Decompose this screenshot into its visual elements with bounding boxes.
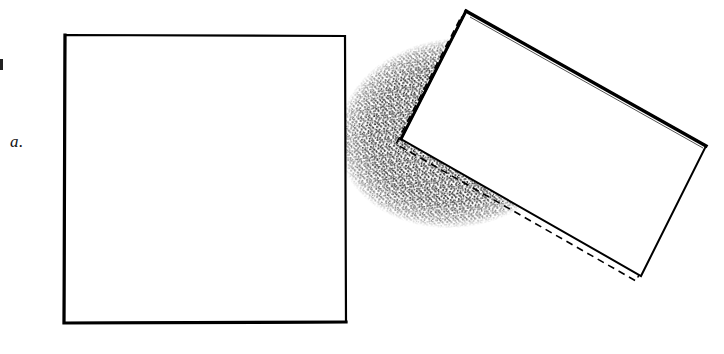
- figure-panel: a.: [0, 0, 724, 354]
- front-square: [64, 35, 346, 323]
- figure-illustration: [0, 0, 724, 354]
- panel-label: a.: [10, 132, 24, 152]
- page-edge-mark: [0, 59, 3, 70]
